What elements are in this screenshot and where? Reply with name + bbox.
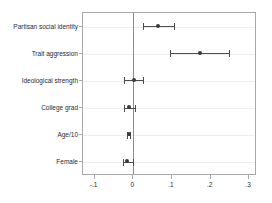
x-axis-tick [210, 175, 211, 179]
x-axis-tick-label: 0 [130, 181, 134, 188]
x-axis-tick [248, 175, 249, 179]
x-axis-tick [171, 175, 172, 179]
x-axis: -.10.1.2.3 [0, 0, 272, 203]
x-axis-tick-label: -.1 [90, 181, 98, 188]
x-axis-tick-label: .1 [168, 181, 173, 188]
x-axis-tick-label: .3 [246, 181, 251, 188]
coefficient-plot: Partisan social identityTrait aggression… [0, 0, 272, 203]
x-axis-tick-label: .2 [207, 181, 212, 188]
x-axis-tick [94, 175, 95, 179]
x-axis-tick [132, 175, 133, 179]
